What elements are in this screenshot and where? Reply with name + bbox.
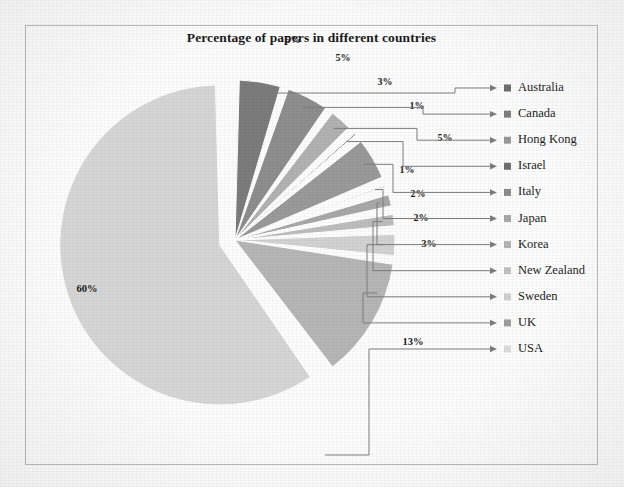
legend-swatch — [504, 293, 511, 300]
leader-arrowhead — [490, 163, 497, 169]
pie-slice-value-label: 13% — [403, 336, 424, 347]
legend-swatch — [504, 267, 511, 274]
leader-arrowhead — [490, 320, 497, 326]
pie-slice-value-label: 1% — [400, 164, 415, 175]
pie-slice-value-label: 1% — [410, 100, 425, 111]
legend-swatch — [504, 215, 511, 222]
leader-arrowhead — [490, 241, 497, 247]
legend-label: Canada — [518, 106, 556, 120]
legend-label: UK — [518, 315, 536, 329]
legend-label: Australia — [518, 80, 564, 94]
legend-label: Israel — [518, 158, 546, 172]
pie-slice-value-label: 3% — [378, 76, 393, 87]
pie-slice-value-label: 3% — [422, 238, 437, 249]
legend-swatch — [504, 111, 511, 118]
legend-swatch — [504, 346, 511, 353]
legend-swatch — [504, 85, 511, 92]
leader-line — [325, 349, 490, 455]
legend-label: Japan — [518, 211, 547, 225]
legend-label: Hong Kong — [518, 132, 577, 146]
leader-arrowhead — [490, 346, 497, 352]
legend-label: Korea — [518, 237, 549, 251]
legend-label: New Zealand — [518, 263, 586, 277]
leader-arrowhead — [490, 215, 497, 221]
legend-swatch — [504, 319, 511, 326]
pie-slice-value-label: 60% — [77, 283, 98, 294]
leader-line — [303, 107, 490, 114]
legend-label: Sweden — [518, 289, 558, 303]
leader-arrowhead — [490, 268, 497, 274]
legend-swatch — [504, 241, 511, 248]
leader-arrowhead — [490, 294, 497, 300]
legend-swatch — [504, 163, 511, 170]
leader-arrowhead — [490, 189, 497, 195]
legend: AustraliaCanadaHong KongIsraelItalyJapan… — [504, 80, 586, 355]
legend-label: Italy — [518, 184, 542, 198]
pie-chart-plot-area: 5%5%3%1%5%1%2%2%3%13%60% AustraliaCanada… — [25, 25, 598, 465]
pie-slice-value-label: 2% — [414, 212, 429, 223]
legend-swatch — [504, 137, 511, 144]
pie-slice-value-label: 5% — [286, 34, 301, 45]
leader-arrowhead — [490, 137, 497, 143]
pie-chart-svg: 5%5%3%1%5%1%2%2%3%13%60% AustraliaCanada… — [25, 25, 598, 465]
leader-arrowhead — [490, 85, 497, 91]
pie-slice-value-label: 5% — [336, 52, 351, 63]
legend-swatch — [504, 189, 511, 196]
pie-slice-value-label: 5% — [438, 132, 453, 143]
leader-line — [333, 128, 490, 140]
legend-label: USA — [518, 341, 543, 355]
pie-slice-value-label: 2% — [411, 188, 426, 199]
leader-arrowhead — [490, 111, 497, 117]
